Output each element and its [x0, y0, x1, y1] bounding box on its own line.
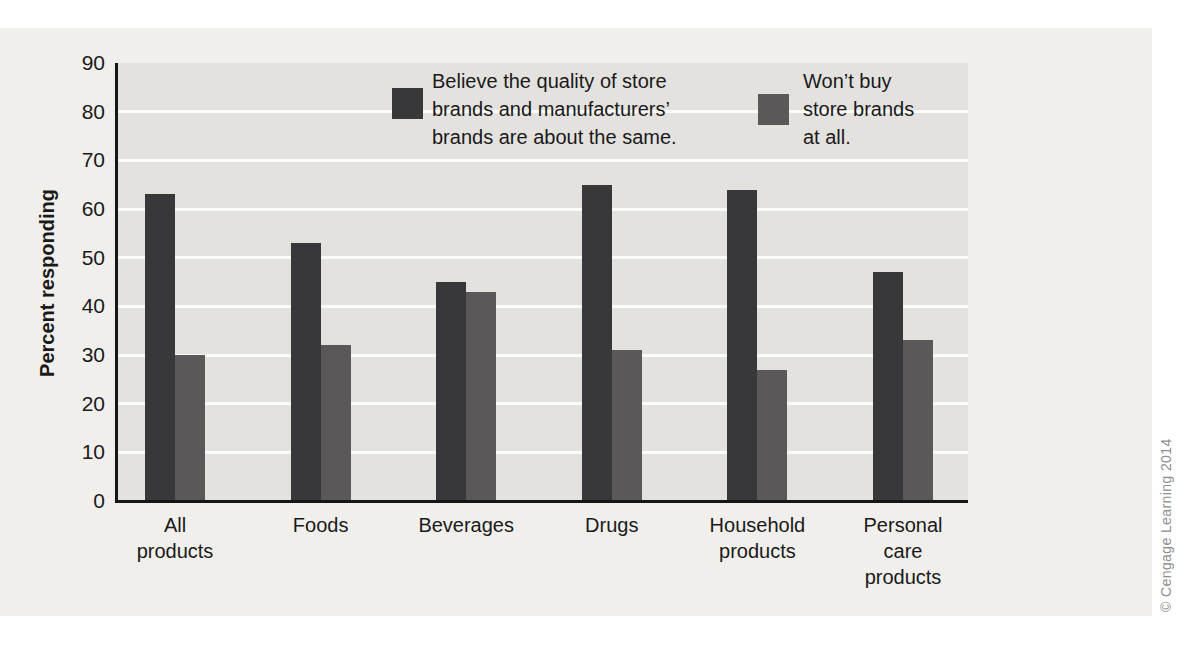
- gridline-10: [117, 451, 968, 454]
- y-tick-label-60: 60: [45, 196, 105, 222]
- bar-series1-5: [727, 190, 757, 501]
- figure: Percent responding 0102030405060708090 A…: [0, 0, 1202, 652]
- y-tick-label-30: 30: [45, 342, 105, 368]
- y-tick-label-70: 70: [45, 147, 105, 173]
- gridline-60: [117, 208, 968, 211]
- legend-label-series2: Won’t buy store brands at all.: [803, 67, 1003, 151]
- x-label-4: Drugs: [537, 512, 687, 538]
- legend-label-series1: Believe the quality of store brands and …: [432, 67, 732, 151]
- y-tick-label-90: 90: [45, 50, 105, 76]
- bar-series1-6: [873, 272, 903, 501]
- bar-series2-6: [903, 340, 933, 501]
- x-label-5: Household products: [682, 512, 832, 564]
- y-tick-label-40: 40: [45, 293, 105, 319]
- legend-swatch-series1: [392, 88, 423, 119]
- x-label-6: Personal care products: [828, 512, 978, 590]
- y-tick-label-80: 80: [45, 99, 105, 125]
- bar-series1-4: [582, 185, 612, 501]
- copyright-credit: © Cengage Learning 2014: [1158, 412, 1174, 612]
- y-axis-line: [115, 63, 118, 503]
- bar-series2-4: [612, 350, 642, 501]
- y-tick-label-50: 50: [45, 245, 105, 271]
- bar-series1-3: [436, 282, 466, 501]
- bar-series1-1: [145, 194, 175, 501]
- x-axis-line: [115, 500, 968, 503]
- legend-swatch-series2: [758, 94, 789, 125]
- x-label-1: All products: [100, 512, 250, 564]
- bar-series2-3: [466, 292, 496, 501]
- gridline-50: [117, 256, 968, 259]
- bar-series2-1: [175, 355, 205, 501]
- gridline-40: [117, 305, 968, 308]
- gridline-70: [117, 159, 968, 162]
- bar-series2-2: [321, 345, 351, 501]
- y-tick-label-20: 20: [45, 391, 105, 417]
- x-label-3: Beverages: [391, 512, 541, 538]
- y-tick-label-0: 0: [45, 488, 105, 514]
- bar-series2-5: [757, 370, 787, 501]
- x-label-2: Foods: [246, 512, 396, 538]
- bar-series1-2: [291, 243, 321, 501]
- y-tick-label-10: 10: [45, 439, 105, 465]
- gridline-20: [117, 402, 968, 405]
- gridline-30: [117, 354, 968, 357]
